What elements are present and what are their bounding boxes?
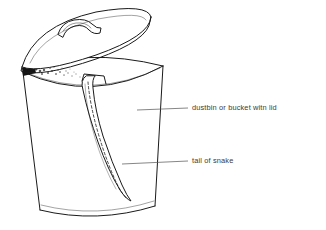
illustration-canvas: dustbin or bucket witn lid tail of snake — [0, 0, 326, 230]
label-bucket: dustbin or bucket witn lid — [192, 103, 277, 112]
label-tail: tail of snake — [192, 156, 233, 165]
snake-in-bucket-drawing: dustbin or bucket witn lid tail of snake — [0, 0, 326, 230]
lid — [21, 8, 151, 72]
annotation-labels: dustbin or bucket witn lid tail of snake — [192, 103, 277, 165]
